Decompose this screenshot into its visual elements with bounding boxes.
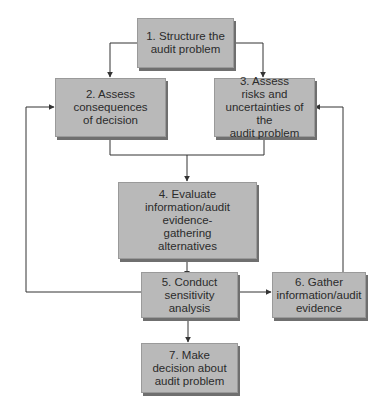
edge-2-to-merge xyxy=(110,140,264,155)
node-label: 1. Structure the audit problem xyxy=(146,30,225,56)
node-assess-risks: 3. Assess risks and uncertainties of the… xyxy=(214,78,315,137)
edge-1-to-3 xyxy=(234,43,263,77)
flowchart-canvas: 1. Structure the audit problem 2. Assess… xyxy=(0,0,387,416)
node-label: 3. Assess risks and uncertainties of the… xyxy=(218,75,311,140)
node-structure-problem: 1. Structure the audit problem xyxy=(137,18,234,68)
node-assess-consequences: 2. Assess consequences of decision xyxy=(55,78,166,137)
edge-1-to-2 xyxy=(110,43,137,77)
node-label: 5. Conduct sensitivity analysis xyxy=(162,276,218,315)
node-label: 4. Evaluate information/audit evidence- … xyxy=(122,188,253,253)
node-make-decision: 7. Make decision about audit problem xyxy=(141,343,238,393)
node-label: 6. Gather information/audit evidence xyxy=(276,276,361,315)
node-evaluate-alternatives: 4. Evaluate information/audit evidence- … xyxy=(118,182,257,259)
node-label: 2. Assess consequences of decision xyxy=(73,88,147,127)
node-label: 7. Make decision about audit problem xyxy=(152,349,226,388)
node-sensitivity-analysis: 5. Conduct sensitivity analysis xyxy=(141,272,238,318)
node-gather-evidence: 6. Gather information/audit evidence xyxy=(272,272,366,318)
edge-6-to-3 xyxy=(315,107,343,277)
